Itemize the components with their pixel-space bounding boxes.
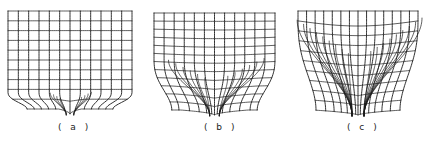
flow-line xyxy=(323,37,352,116)
deformed-grid-c xyxy=(0,0,429,142)
grid-vertical-line xyxy=(315,11,334,112)
grid-vertical-line xyxy=(360,11,366,114)
grid-lines-c xyxy=(297,11,422,116)
panel-label-c: ( c ) xyxy=(347,122,380,132)
panel-c xyxy=(0,0,429,142)
